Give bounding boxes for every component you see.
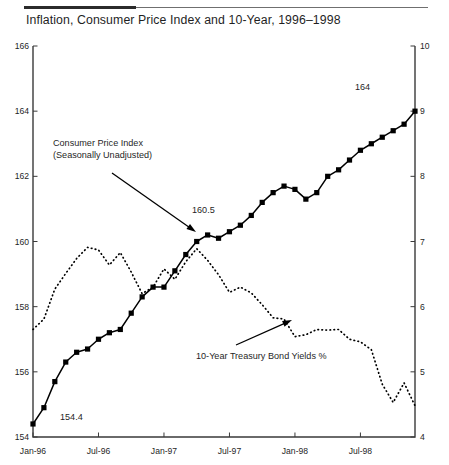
axes xyxy=(33,46,415,437)
annotation-cpi: Consumer Price Index (Seasonally Unadjus… xyxy=(53,138,152,161)
data-point-marker-22 xyxy=(271,190,276,195)
point-label-start: 154.4 xyxy=(60,412,83,422)
data-point-marker-2 xyxy=(52,379,57,384)
x-tick-jan-96: Jan-96 xyxy=(20,446,46,456)
y-tick-left-162: 162 xyxy=(15,171,29,181)
y-tick-right-10: 10 xyxy=(420,41,430,51)
y-tick-right-7: 7 xyxy=(420,237,425,247)
data-point-marker-16 xyxy=(205,232,210,237)
point-label-mid: 160.5 xyxy=(192,205,215,215)
data-point-marker-9 xyxy=(129,311,134,316)
data-point-marker-7 xyxy=(107,330,112,335)
annotation-arrows xyxy=(112,173,292,345)
y-tick-left-154: 154 xyxy=(15,432,29,442)
data-point-marker-3 xyxy=(63,359,68,364)
data-point-marker-29 xyxy=(347,157,352,162)
y-tick-right-6: 6 xyxy=(420,302,425,312)
header-rule xyxy=(24,6,428,10)
axis-ticks xyxy=(33,46,415,437)
x-tick-jan-97: Jan-97 xyxy=(151,446,177,456)
data-point-marker-10 xyxy=(140,294,145,299)
chart-figure: Inflation, Consumer Price Index and 10-Y… xyxy=(0,0,449,465)
data-point-marker-1 xyxy=(41,405,46,410)
data-point-marker-26 xyxy=(314,190,319,195)
data-point-marker-5 xyxy=(85,346,90,351)
y-tick-left-166: 166 xyxy=(15,41,29,51)
data-point-marker-4 xyxy=(74,350,79,355)
data-point-marker-20 xyxy=(249,213,254,218)
data-point-marker-21 xyxy=(260,200,265,205)
data-point-marker-33 xyxy=(391,128,396,133)
y-tick-right-4: 4 xyxy=(420,432,425,442)
y-tick-left-156: 156 xyxy=(15,367,29,377)
data-point-marker-35 xyxy=(412,109,417,114)
data-point-marker-24 xyxy=(292,187,297,192)
page-title: Inflation, Consumer Price Index and 10-Y… xyxy=(26,13,341,27)
data-point-marker-25 xyxy=(303,197,308,202)
chart-canvas xyxy=(33,46,415,437)
y-tick-right-5: 5 xyxy=(420,367,425,377)
x-tick-jul-96: Jul-96 xyxy=(87,446,110,456)
data-point-marker-30 xyxy=(358,148,363,153)
data-point-marker-0 xyxy=(30,421,35,426)
x-tick-jan-98: Jan-98 xyxy=(282,446,308,456)
data-point-marker-6 xyxy=(96,337,101,342)
data-point-marker-31 xyxy=(369,141,374,146)
y-tick-right-9: 9 xyxy=(420,106,425,116)
plot-area: 154156158160162164166 45678910 Jan-96Jul… xyxy=(33,46,415,437)
series-bond-yield-line xyxy=(33,247,415,405)
x-tick-jul-97: Jul-97 xyxy=(218,446,241,456)
annotation-bond-yield: 10-Year Treasury Bond Yields % xyxy=(196,351,327,363)
data-point-marker-12 xyxy=(161,285,166,290)
annotation-cpi-line2: (Seasonally Unadjusted) xyxy=(53,150,152,162)
data-point-marker-34 xyxy=(401,122,406,127)
annotation-cpi-line1: Consumer Price Index xyxy=(53,138,152,150)
y-tick-left-160: 160 xyxy=(15,237,29,247)
y-tick-left-158: 158 xyxy=(15,302,29,312)
y-tick-left-164: 164 xyxy=(15,106,29,116)
data-point-marker-32 xyxy=(380,135,385,140)
data-point-marker-27 xyxy=(325,174,330,179)
data-point-marker-28 xyxy=(336,167,341,172)
data-point-marker-15 xyxy=(194,239,199,244)
point-label-end: 164 xyxy=(355,82,370,92)
y-tick-right-8: 8 xyxy=(420,171,425,181)
arrow-cpi-shaft xyxy=(112,173,190,228)
arrow-bond-head xyxy=(282,320,292,327)
data-point-marker-8 xyxy=(118,327,123,332)
data-point-marker-13 xyxy=(172,268,177,273)
arrow-cpi-head xyxy=(186,224,196,232)
data-point-marker-18 xyxy=(227,229,232,234)
x-tick-jul-98: Jul-98 xyxy=(349,446,372,456)
data-point-marker-23 xyxy=(281,184,286,189)
data-point-marker-17 xyxy=(216,236,221,241)
data-point-marker-14 xyxy=(183,252,188,257)
data-point-marker-19 xyxy=(238,223,243,228)
header-rule-thick xyxy=(24,6,136,9)
data-point-marker-11 xyxy=(150,285,155,290)
arrow-bond-shaft xyxy=(236,323,285,345)
